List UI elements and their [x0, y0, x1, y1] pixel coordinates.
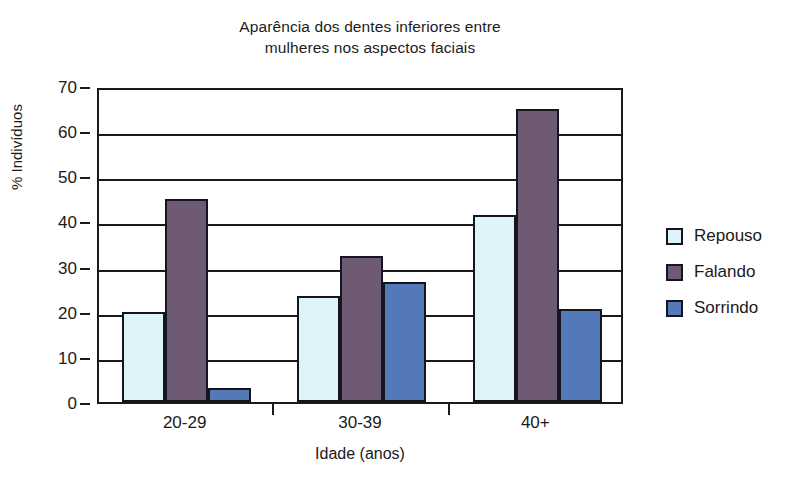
y-axis-tick-mark [80, 177, 90, 179]
y-axis-tick-mark [80, 222, 90, 224]
bar [165, 199, 208, 402]
y-axis-tick-label: 10 [58, 349, 77, 369]
chart-title: Aparência dos dentes inferiores entre mu… [120, 16, 620, 58]
y-axis-tick-mark [80, 313, 90, 315]
y-axis-tick-label: 70 [58, 78, 77, 98]
y-axis-tick-label: 20 [58, 304, 77, 324]
x-axis-tick-label: 40+ [521, 413, 550, 433]
y-axis-tick-mark [80, 132, 90, 134]
bar [297, 296, 340, 402]
bar [473, 215, 516, 402]
y-axis-tick-mark [80, 87, 90, 89]
y-axis-tick-label: 40 [58, 213, 77, 233]
plot-area [97, 88, 623, 404]
y-axis-tick-mark [80, 268, 90, 270]
bar [340, 256, 383, 402]
y-axis-tick-label: 0 [68, 394, 77, 414]
bar [559, 309, 602, 402]
bar [122, 312, 165, 402]
legend-swatch-icon [666, 300, 683, 317]
legend-item[interactable]: Falando [666, 254, 762, 290]
y-axis-tick-label: 30 [58, 259, 77, 279]
y-axis-tick-mark [80, 358, 90, 360]
legend-item[interactable]: Sorrindo [666, 290, 762, 326]
bar [516, 109, 559, 402]
legend-swatch-icon [666, 228, 683, 245]
chart-legend: RepousoFalandoSorrindo [666, 218, 762, 326]
x-axis-title: Idade (anos) [97, 445, 623, 463]
bar [208, 388, 251, 402]
bar-group [274, 90, 449, 402]
y-axis-tick-label: 60 [58, 123, 77, 143]
x-axis-tick-label: 20-29 [163, 413, 206, 433]
x-axis-tick-labels: 20-2930-3940+ [97, 413, 623, 439]
y-axis-tick-labels: 010203040506070 [40, 88, 90, 404]
legend-item[interactable]: Repouso [666, 218, 762, 254]
y-axis-title: % Indivíduos [8, 104, 25, 190]
legend-label: Falando [694, 262, 755, 282]
legend-label: Repouso [694, 226, 762, 246]
legend-swatch-icon [666, 264, 683, 281]
bar-group [450, 90, 625, 402]
chart-title-line-2: mulheres nos aspectos faciais [120, 37, 620, 58]
chart-title-line-1: Aparência dos dentes inferiores entre [120, 16, 620, 37]
bar-group [99, 90, 274, 402]
legend-label: Sorrindo [694, 298, 758, 318]
bar [383, 282, 426, 402]
bars-layer [99, 90, 621, 402]
bar-chart-figure: Aparência dos dentes inferiores entre mu… [0, 0, 802, 485]
x-axis-tick-label: 30-39 [338, 413, 381, 433]
y-axis-tick-label: 50 [58, 168, 77, 188]
y-axis-tick-mark [80, 403, 90, 405]
